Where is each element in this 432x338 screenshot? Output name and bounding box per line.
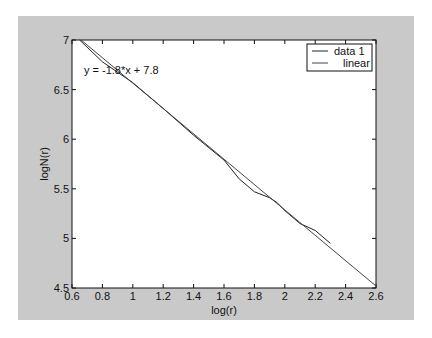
x-tick-label: 2.6 bbox=[368, 290, 383, 302]
x-tick-label: 1.2 bbox=[156, 290, 171, 302]
y-tick-label: 6.5 bbox=[54, 84, 69, 96]
x-tick-label: 0.8 bbox=[95, 290, 110, 302]
chart: 0.60.811.21.41.61.822.22.42.64.555.566.5… bbox=[0, 0, 432, 338]
x-tick-label: 2.2 bbox=[308, 290, 323, 302]
legend-label-linear: linear bbox=[343, 57, 370, 69]
y-axis-label: logN(r) bbox=[38, 147, 50, 181]
x-axis-label: log(r) bbox=[211, 304, 237, 316]
plot-area bbox=[72, 40, 376, 288]
x-tick-label: 1.6 bbox=[216, 290, 231, 302]
y-tick-label: 7 bbox=[63, 34, 69, 46]
y-tick-label: 5.5 bbox=[54, 183, 69, 195]
legend: data 1 linear bbox=[307, 44, 372, 71]
y-tick-label: 5 bbox=[63, 232, 69, 244]
fit-equation-annotation: y = -1.8*x + 7.8 bbox=[84, 64, 159, 76]
y-tick-label: 6 bbox=[63, 133, 69, 145]
y-tick-label: 4.5 bbox=[54, 282, 69, 294]
x-tick-label: 2.4 bbox=[338, 290, 353, 302]
x-tick-label: 2 bbox=[282, 290, 288, 302]
x-tick-label: 1 bbox=[130, 290, 136, 302]
x-tick-label: 1.8 bbox=[247, 290, 262, 302]
legend-label-data1: data 1 bbox=[334, 45, 365, 57]
x-tick-label: 1.4 bbox=[186, 290, 201, 302]
